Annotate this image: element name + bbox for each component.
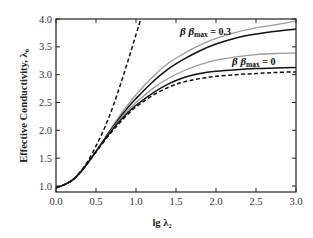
x-tick-label: 3.0: [289, 196, 302, 207]
y-tick-label: 1.0: [39, 181, 52, 192]
x-tick-label: 1.0: [129, 196, 142, 207]
x-tick-label: 2.5: [249, 196, 262, 207]
series-line: [56, 29, 296, 188]
x-tick-label: 1.5: [169, 196, 182, 207]
annotations: β βmax = 0.3β βmax = 0: [179, 25, 275, 70]
series-line: [56, 72, 296, 188]
x-tick-label: 0.0: [49, 196, 62, 207]
y-tick-label: 2.5: [39, 97, 52, 108]
y-tick-label: 1.5: [39, 153, 52, 164]
y-tick-label: 3.0: [39, 69, 52, 80]
axis-ticks: 0.00.51.01.52.02.53.01.01.52.02.53.03.54…: [39, 14, 303, 208]
series-line: [56, 53, 296, 188]
series-line: [56, 67, 296, 187]
y-tick-label: 2.0: [39, 125, 52, 136]
x-tick-label: 0.5: [89, 196, 102, 207]
series-line: [56, 21, 296, 187]
series-layer: [56, 19, 296, 188]
curve-annotation: β βmax = 0: [231, 55, 275, 69]
plot-frame: [56, 19, 296, 192]
x-tick-label: 2.0: [209, 196, 222, 207]
curve-annotation: β βmax = 0.3: [179, 25, 231, 39]
x-axis-title: lg λ₂: [152, 217, 171, 228]
y-axis-title: Effective Conductivity, λ₀: [18, 49, 29, 163]
chart: 0.00.51.01.52.02.53.01.01.52.02.53.03.54…: [0, 0, 313, 238]
series-line: [56, 19, 141, 188]
y-tick-label: 4.0: [39, 14, 52, 25]
y-tick-label: 3.5: [39, 41, 52, 52]
